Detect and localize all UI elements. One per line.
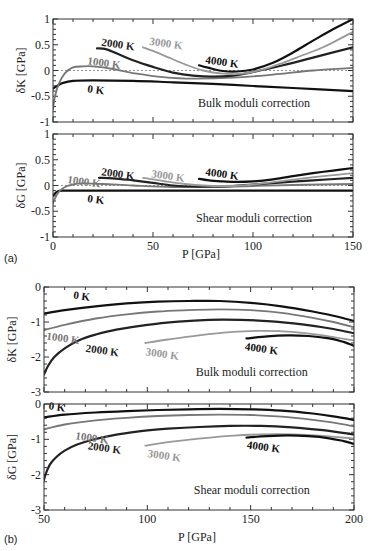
y-tick-label: -0.5 — [31, 89, 50, 103]
chart-panel-b-bulk: 0-1-2-30 K1000 K2000 K3000 K4000 KBulk m… — [5, 280, 354, 399]
series-line-0k — [44, 301, 354, 321]
curve-label: 0 K — [48, 399, 67, 413]
panel-a-tag: (a) — [4, 252, 17, 264]
curve-label: 2000 K — [101, 165, 136, 182]
panel-annotation: Bulk moduli correction — [196, 365, 308, 379]
y-tick-label: 1 — [44, 127, 50, 141]
curve-label: 0 K — [73, 289, 92, 303]
curve-label: 3000 K — [151, 167, 186, 184]
curve-label: 3000 K — [147, 447, 182, 464]
x-tick-label: 100 — [244, 239, 262, 253]
curve-label: 4000 K — [246, 438, 281, 455]
y-tick-label: 0 — [35, 280, 41, 294]
chart-panel-b-shear: 0-1-2-3501001502000 K1000 K2000 K3000 K4… — [5, 397, 363, 526]
y-tick-label: -0.5 — [31, 204, 50, 218]
y-axis-label: δK [GPa] — [14, 48, 28, 94]
y-tick-label: -2 — [31, 350, 41, 364]
curve-label: 3000 K — [149, 35, 184, 52]
panel-a-xlabel: P [GPa] — [182, 247, 220, 261]
panel-b-xlabel: P [GPa] — [178, 530, 216, 544]
curve-label: 1000 K — [46, 330, 81, 347]
curve-label: 0 K — [87, 192, 106, 206]
panel-b-tag: (b) — [4, 533, 17, 545]
x-tick-label: 50 — [38, 512, 50, 526]
curve-label: 2000 K — [87, 439, 122, 456]
y-tick-label: -2 — [31, 468, 41, 482]
y-tick-label: 0 — [44, 179, 50, 193]
panel-annotation: Bulk moduli correction — [198, 96, 310, 110]
figure-canvas: 10.50-0.5-10 K1000 K2000 K3000 K4000 KBu… — [0, 0, 379, 551]
y-tick-label: 0.5 — [35, 38, 50, 52]
x-tick-label: 200 — [345, 512, 363, 526]
curve-label: 4000 K — [244, 340, 279, 357]
y-tick-label: 0.5 — [35, 153, 50, 167]
curve-label: 1000 K — [67, 173, 102, 190]
chart-panels: 10.50-0.5-10 K1000 K2000 K3000 K4000 KBu… — [5, 12, 363, 526]
y-tick-label: 1 — [44, 12, 50, 26]
x-tick-label: 150 — [344, 239, 362, 253]
chart-panel-a-bulk: 10.50-0.5-10 K1000 K2000 K3000 K4000 KBu… — [14, 12, 353, 129]
panel-annotation: Shear moduli correction — [194, 483, 310, 497]
y-axis-label: δG [GPa] — [14, 163, 28, 209]
y-tick-label: 0 — [35, 397, 41, 411]
y-axis-label: δG [GPa] — [5, 434, 19, 480]
y-tick-label: -1 — [31, 432, 41, 446]
y-tick-label: -1 — [31, 315, 41, 329]
curve-label: 0 K — [87, 82, 106, 96]
chart-panel-a-shear: 10.50-0.5-10501001500 K1000 K2000 K3000 … — [14, 127, 362, 253]
x-tick-label: 150 — [242, 512, 260, 526]
curve-label: 1000 K — [87, 54, 122, 71]
y-tick-label: -1 — [40, 230, 50, 244]
y-axis-label: δK [GPa] — [5, 317, 19, 363]
x-tick-label: 50 — [147, 239, 159, 253]
y-tick-label: 0 — [44, 64, 50, 78]
panel-annotation: Shear moduli correction — [196, 211, 312, 225]
x-tick-label: 100 — [138, 512, 156, 526]
x-tick-label: 0 — [50, 239, 56, 253]
curve-label: 3000 K — [145, 345, 180, 362]
curve-label: 2000 K — [85, 342, 120, 359]
